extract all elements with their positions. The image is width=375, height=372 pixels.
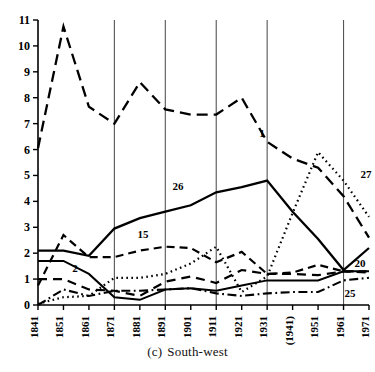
y-tick-label-10: 10 — [18, 39, 30, 53]
series-label-1: 1 — [259, 127, 265, 139]
x-tick-label-1861: 1861 — [79, 316, 91, 338]
x-tick-label-1881: 1881 — [130, 316, 142, 338]
series-line-26 — [38, 181, 369, 270]
series-label-27: 27 — [361, 168, 373, 180]
series-line-25 — [38, 278, 369, 305]
y-tick-label-11: 11 — [19, 13, 30, 27]
x-tick-label-1841: 1841 — [28, 316, 40, 338]
series-group — [38, 26, 369, 305]
y-tick-label-8: 8 — [24, 91, 30, 105]
x-tick-label-1871: 1871 — [104, 316, 116, 338]
gridlines-group — [114, 20, 343, 305]
chart-caption: (c)South-west — [0, 344, 375, 360]
y-tick-label-7: 7 — [24, 117, 30, 131]
y-tick-label-6: 6 — [24, 143, 30, 157]
y-tick-label-3: 3 — [24, 220, 30, 234]
x-axis-ticks: 1841185118611871188118911901191119211931… — [28, 305, 371, 345]
x-tick-label-1951: 1951 — [308, 316, 320, 338]
series-line-15 — [38, 235, 369, 286]
x-tick-label-1851: 1851 — [53, 316, 65, 338]
x-tick-label-1901: 1901 — [181, 316, 193, 338]
series-label-25: 25 — [345, 287, 357, 299]
series-label-2: 2 — [72, 262, 78, 274]
x-tick-label-(1941): (1941) — [283, 316, 296, 346]
caption-text: South-west — [167, 344, 228, 359]
x-tick-label-1961: 1961 — [334, 316, 346, 338]
y-tick-label-4: 4 — [24, 194, 30, 208]
series-label-15: 15 — [138, 228, 150, 240]
series-label-26: 26 — [173, 180, 185, 192]
caption-index: (c) — [147, 344, 162, 359]
y-tick-label-9: 9 — [24, 65, 30, 79]
chart-container: 01234567891011 1841185118611871188118911… — [0, 0, 375, 372]
y-tick-label-5: 5 — [24, 168, 30, 182]
line-chart: 01234567891011 1841185118611871188118911… — [0, 0, 375, 372]
y-axis-ticks: 01234567891011 — [18, 13, 38, 312]
x-tick-label-1911: 1911 — [206, 316, 218, 337]
x-tick-label-1931: 1931 — [257, 316, 269, 338]
y-tick-label-1: 1 — [24, 272, 30, 286]
y-tick-label-0: 0 — [24, 298, 30, 312]
x-tick-label-1891: 1891 — [155, 316, 167, 338]
x-tick-label-1971: 1971 — [359, 316, 371, 338]
axes-group — [38, 20, 369, 305]
series-label-20: 20 — [355, 257, 367, 269]
x-tick-label-1921: 1921 — [232, 316, 244, 338]
y-tick-label-2: 2 — [24, 246, 30, 260]
series-line-1 — [38, 26, 369, 237]
